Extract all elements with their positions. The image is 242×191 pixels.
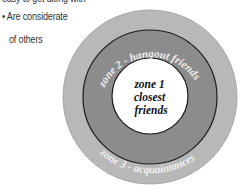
zone1-label: zone 1 closest friends xyxy=(133,78,168,117)
friendship-zones-diagram: zone 2 - hangout friends zone 3 - acquai… xyxy=(0,0,242,191)
